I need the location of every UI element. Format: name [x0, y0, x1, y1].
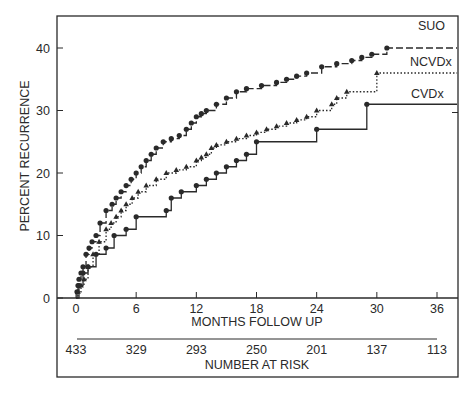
circle-marker: [134, 214, 139, 219]
circle-marker: [194, 183, 199, 188]
circle-marker: [103, 208, 108, 213]
risk-count: 137: [366, 343, 387, 357]
triangle-marker: [284, 120, 290, 125]
circle-marker: [97, 220, 102, 225]
circle-marker: [314, 127, 319, 132]
circle-marker: [294, 74, 299, 79]
y-tick-label: 10: [36, 229, 50, 243]
circle-marker: [119, 189, 124, 194]
series-label-ncvdx: NCVDx: [410, 55, 452, 69]
triangle-marker: [344, 89, 350, 94]
risk-count: 293: [186, 343, 207, 357]
x-tick-label: 36: [430, 302, 444, 316]
circle-marker: [80, 270, 85, 275]
circle-marker: [369, 52, 374, 57]
triangle-marker: [123, 201, 129, 206]
circle-marker: [161, 139, 166, 144]
circle-marker: [384, 45, 389, 50]
circle-marker: [144, 158, 149, 163]
triangle-marker: [204, 151, 210, 156]
circle-marker: [224, 164, 229, 169]
triangle-marker: [199, 154, 205, 159]
circle-marker: [124, 227, 129, 232]
x-tick-label: 18: [250, 302, 264, 316]
circle-marker: [234, 158, 239, 163]
circle-marker: [199, 111, 204, 116]
y-tick-label: 0: [43, 292, 50, 306]
circle-marker: [83, 252, 88, 257]
circle-marker: [85, 264, 90, 269]
x-tick-label: 6: [133, 302, 140, 316]
circle-marker: [86, 245, 91, 250]
circle-marker: [76, 283, 81, 288]
circle-marker: [194, 114, 199, 119]
circle-marker: [359, 55, 364, 60]
risk-count: 433: [66, 343, 87, 357]
circle-marker: [214, 102, 219, 107]
chart-figure: 010203040 061218243036 SUONCVDxCVDx 4333…: [0, 0, 474, 393]
series-label-cvdx: CVDx: [411, 87, 444, 101]
triangle-marker: [254, 129, 260, 134]
circle-marker: [189, 120, 194, 125]
triangle-marker: [294, 117, 300, 122]
x-tick-label: 30: [370, 302, 384, 316]
circle-marker: [304, 70, 309, 75]
circle-marker: [259, 83, 264, 88]
triangle-marker: [103, 226, 109, 231]
circle-marker: [76, 277, 81, 282]
circle-marker: [129, 177, 134, 182]
triangle-marker: [173, 167, 179, 172]
circle-marker: [134, 170, 139, 175]
circle-marker: [93, 252, 98, 257]
risk-table-label: NUMBER AT RISK: [205, 358, 310, 372]
circle-marker: [319, 64, 324, 69]
triangle-marker: [143, 183, 149, 188]
circle-marker: [364, 102, 369, 107]
y-axis-ticks: 010203040: [36, 42, 458, 306]
circle-marker: [114, 195, 119, 200]
circle-marker: [124, 183, 129, 188]
risk-count: 201: [306, 343, 327, 357]
circle-marker: [139, 164, 144, 169]
circle-marker: [89, 239, 94, 244]
circle-marker: [204, 177, 209, 182]
circle-marker: [274, 80, 279, 85]
circle-marker: [93, 233, 98, 238]
triangle-marker: [118, 208, 124, 213]
circle-marker: [184, 127, 189, 132]
circle-marker: [284, 77, 289, 82]
triangle-marker: [374, 70, 380, 75]
x-tick-label: 24: [310, 302, 324, 316]
circle-marker: [169, 136, 174, 141]
circle-marker: [110, 202, 115, 207]
circle-marker: [154, 145, 159, 150]
y-axis-label: PERCENT RECURRENCE: [18, 80, 32, 231]
x-axis-label: MONTHS FOLLOW UP: [191, 315, 322, 329]
circle-marker: [177, 133, 182, 138]
risk-values: 433329293250201137113: [66, 343, 447, 357]
y-tick-label: 30: [36, 104, 50, 118]
circle-marker: [149, 152, 154, 157]
circle-marker: [103, 245, 108, 250]
risk-count: 250: [246, 343, 267, 357]
y-tick-label: 20: [36, 167, 50, 181]
risk-count: 329: [126, 343, 147, 357]
circle-marker: [164, 208, 169, 213]
series-label-suo: SUO: [418, 19, 445, 33]
x-axis-ticks: 061218243036: [73, 292, 444, 316]
circle-marker: [349, 58, 354, 63]
circle-marker: [334, 61, 339, 66]
x-tick-label: 0: [73, 302, 80, 316]
circle-marker: [224, 95, 229, 100]
circle-marker: [80, 264, 85, 269]
triangle-marker: [274, 123, 280, 128]
triangle-marker: [329, 101, 335, 106]
circle-marker: [112, 233, 117, 238]
circle-marker: [204, 108, 209, 113]
risk-count: 113: [427, 343, 447, 357]
triangle-marker: [314, 108, 320, 113]
triangle-marker: [135, 189, 141, 194]
circle-marker: [214, 170, 219, 175]
x-tick-label: 12: [189, 302, 203, 316]
circle-marker: [179, 189, 184, 194]
